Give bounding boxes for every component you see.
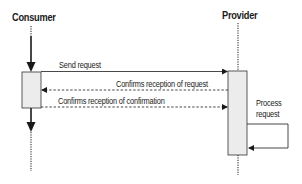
consumer-label: Consumer xyxy=(12,11,56,23)
diagram-canvas xyxy=(0,0,302,184)
process-request-label: Process request xyxy=(256,98,282,120)
send-request-label: Send request xyxy=(59,60,101,70)
provider-activation-box xyxy=(228,71,247,155)
process-request-self-loop xyxy=(247,124,288,148)
consumer-activation-box xyxy=(22,72,41,108)
sequence-diagram: Consumer Provider Send request Confirms … xyxy=(0,0,302,184)
provider-label: Provider xyxy=(222,9,257,21)
confirm-confirmation-label: Confirms reception of confirmation xyxy=(58,96,165,106)
process-request-line-2: request xyxy=(256,109,282,120)
confirm-request-label: Confirms reception of request xyxy=(116,79,208,89)
process-request-line-1: Process xyxy=(256,98,282,109)
